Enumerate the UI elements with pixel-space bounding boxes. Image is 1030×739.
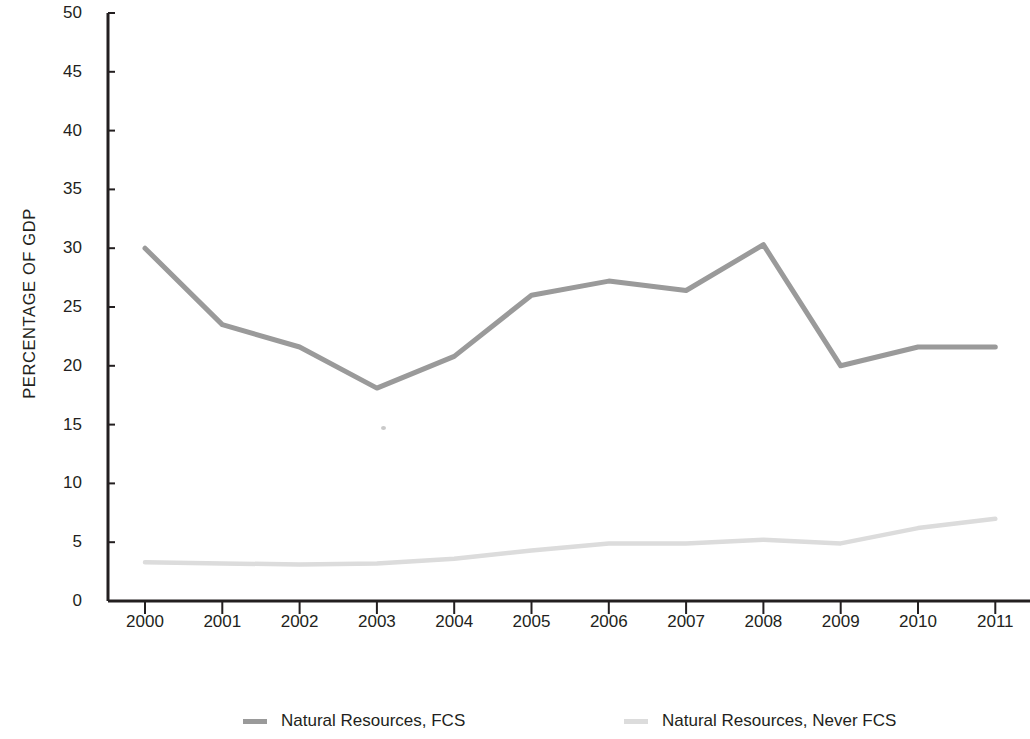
scan-artifact-speck bbox=[381, 426, 386, 430]
axis-lines bbox=[108, 13, 1030, 601]
plot-area bbox=[0, 0, 1030, 739]
legend-swatch-icon bbox=[243, 719, 267, 724]
series-lines bbox=[145, 245, 995, 565]
legend-entry-natural-resources-never-fcs: Natural Resources, Never FCS bbox=[624, 706, 896, 736]
legend-entry-natural-resources-fcs: Natural Resources, FCS bbox=[243, 706, 465, 736]
x-axis-tick-marks bbox=[145, 601, 995, 614]
line-chart-figure: PERCENTAGE OF GDP 05101520253035404550 2… bbox=[0, 0, 1030, 739]
legend-swatch-icon bbox=[624, 719, 648, 724]
series-line-0 bbox=[145, 245, 995, 388]
chart-legend: Natural Resources, FCS Natural Resources… bbox=[0, 706, 1030, 739]
series-line-1 bbox=[145, 519, 995, 565]
legend-label: Natural Resources, FCS bbox=[281, 711, 465, 731]
legend-label: Natural Resources, Never FCS bbox=[662, 711, 896, 731]
